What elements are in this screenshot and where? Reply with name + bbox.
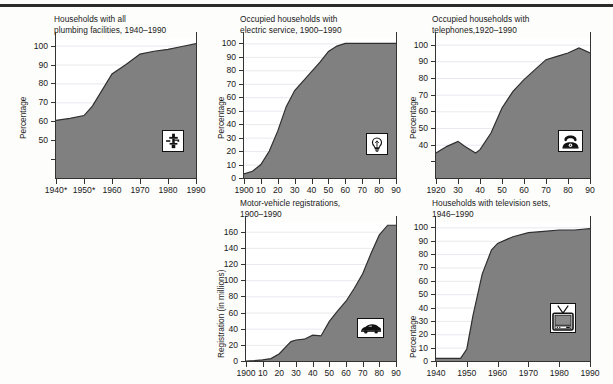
y-tick-mark xyxy=(241,280,246,281)
x-tick-label: 40 xyxy=(308,368,318,378)
x-tick-label: 70 xyxy=(541,185,551,195)
car-icon-svg xyxy=(360,322,382,334)
x-tick-mark xyxy=(278,179,279,184)
y-tick-mark xyxy=(239,84,244,85)
x-tick-mark xyxy=(295,179,296,184)
x-tick-label: 60 xyxy=(519,185,529,195)
x-tick-label: 1900 xyxy=(236,368,255,378)
y-tick-mark xyxy=(431,61,436,62)
y-tick-mark xyxy=(431,241,436,242)
y-tick-label: 10 xyxy=(226,160,236,170)
x-tick-label: 30 xyxy=(453,185,463,195)
x-tick-mark xyxy=(480,179,481,184)
x-tick-label: 1940 xyxy=(426,368,445,378)
x-tick-mark xyxy=(346,362,347,367)
x-tick-mark xyxy=(396,362,397,367)
x-tick-mark xyxy=(396,179,397,184)
y-tick-mark xyxy=(51,46,56,47)
x-tick-mark xyxy=(313,362,314,367)
y-tick-label: 0 xyxy=(233,356,238,366)
x-tick-mark xyxy=(559,362,560,367)
y-axis-label-plumbing: Percentage xyxy=(18,97,28,139)
lightbulb-icon xyxy=(366,133,388,155)
x-tick-mark xyxy=(546,179,547,184)
x-tick-mark xyxy=(436,362,437,367)
y-tick-mark xyxy=(241,248,246,249)
x-tick-label: 1940* xyxy=(45,185,67,195)
chart-panel-motor-vehicles: Motor-vehicle registrations, 1900–1990 R… xyxy=(212,198,402,384)
y-tick-label: 90 xyxy=(226,52,236,62)
chart-panel-television: Households with television sets, 1946–19… xyxy=(404,198,609,384)
y-tick-mark xyxy=(431,227,436,228)
x-tick-mark xyxy=(328,179,329,184)
y-tick-mark-minor xyxy=(51,159,56,160)
y-axis-line xyxy=(435,32,436,179)
y-tick-mark xyxy=(239,165,244,166)
y-tick-mark xyxy=(431,111,436,112)
x-tick-mark xyxy=(312,179,313,184)
y-tick-mark xyxy=(239,111,244,112)
x-tick-label: 80 xyxy=(563,185,573,195)
x-axis-line xyxy=(55,178,197,179)
x-axis-line xyxy=(243,178,397,179)
y-axis-label-electric: Percentage xyxy=(216,97,226,139)
chart-title-telephones: Occupied households with telephones,1920… xyxy=(432,14,602,35)
x-tick-label: 1990 xyxy=(580,368,599,378)
x-tick-label: 80 xyxy=(375,368,385,378)
x-tick-mark xyxy=(590,362,591,367)
y-tick-mark xyxy=(241,313,246,314)
x-tick-label: 1950 xyxy=(457,368,476,378)
x-tick-mark xyxy=(458,179,459,184)
y-tick-label: 10 xyxy=(418,343,428,353)
y-tick-label: 80 xyxy=(228,291,238,301)
y-tick-label: 60 xyxy=(418,276,428,286)
y-tick-label: 40 xyxy=(226,119,236,129)
y-tick-mark xyxy=(241,296,246,297)
y-tick-label: 90 xyxy=(418,56,428,66)
x-tick-label: 70 xyxy=(357,185,367,195)
y-tick-mark xyxy=(51,83,56,84)
y-tick-label: 0 xyxy=(231,173,236,183)
x-tick-label: 30 xyxy=(290,185,300,195)
x-tick-label: 10 xyxy=(256,185,266,195)
x-tick-label: 20 xyxy=(275,368,285,378)
y-tick-label: 60 xyxy=(38,116,48,126)
x-tick-mark xyxy=(590,179,591,184)
y-tick-mark xyxy=(431,281,436,282)
x-tick-label: 90 xyxy=(585,185,595,195)
lightbulb-icon-svg xyxy=(369,136,385,153)
plot-area-television: 0102030405060708090100194019501960197019… xyxy=(436,222,590,361)
x-tick-label: 1960 xyxy=(488,368,507,378)
x-tick-label: 50 xyxy=(325,368,335,378)
y-tick-mark xyxy=(431,267,436,268)
chart-title-electric: Occupied households with electric servic… xyxy=(240,14,405,35)
y-tick-label: 100 xyxy=(224,275,238,285)
y-axis-line xyxy=(55,32,56,179)
y-tick-label: 60 xyxy=(418,106,428,116)
chart-title-television: Households with television sets, 1946–19… xyxy=(432,198,607,219)
x-axis-line xyxy=(245,361,397,362)
x-tick-mark xyxy=(263,362,264,367)
x-tick-mark xyxy=(296,362,297,367)
telephone-icon xyxy=(558,130,583,152)
y-tick-mark xyxy=(431,348,436,349)
y-tick-mark xyxy=(241,232,246,233)
y-tick-label: 20 xyxy=(226,146,236,156)
x-tick-mark xyxy=(467,362,468,367)
y-axis-label-telephones: Percentage xyxy=(408,97,418,139)
y-tick-mark xyxy=(431,254,436,255)
plot-area-plumbing: 50607080901001940*1950*1960197019801990 xyxy=(56,38,196,178)
plot-area-electric: 0102030405060708090100190010203040506070… xyxy=(244,38,396,178)
y-tick-mark xyxy=(431,95,436,96)
y-axis-line xyxy=(243,32,244,179)
y-tick-mark xyxy=(239,97,244,98)
area-series-telephones xyxy=(436,38,590,178)
x-tick-label: 40 xyxy=(307,185,317,195)
x-tick-mark xyxy=(168,179,169,184)
car-icon xyxy=(357,318,384,338)
x-tick-mark xyxy=(196,179,197,184)
x-tick-label: 20 xyxy=(273,185,283,195)
y-tick-label: 90 xyxy=(418,236,428,246)
x-tick-label: 10 xyxy=(258,368,268,378)
chart-panel-telephones: Occupied households with telephones,1920… xyxy=(404,14,609,192)
